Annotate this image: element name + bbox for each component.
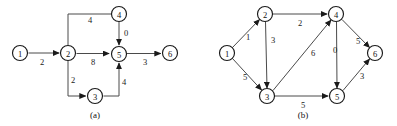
edge-b-3-to-4 [273,20,331,91]
graph-panel-a: 2834024123456(a) [13,7,178,121]
figure-root: 2834024123456(a)152360553123456(b) [0,0,397,126]
edge-weight-label: 3 [271,35,275,45]
graph-node-label: 1 [225,49,229,59]
graph-node-label: 2 [66,49,70,59]
panels-layer: 2834024123456(a)152360553123456(b) [13,7,383,121]
graph-node-label: 3 [93,92,97,102]
nodes-group: 123456 [13,7,178,104]
edge-weight-label: 8 [91,57,95,67]
edge-weight-label: 2 [298,18,302,28]
edge-weight-label: 0 [124,28,128,38]
edge-weight-label: 4 [88,15,93,25]
edge-weight-label: 3 [143,57,147,67]
edge-b-2-to-3 [266,22,268,89]
edges-group: 152360553 [233,14,370,110]
graph-node-label: 6 [373,49,377,59]
edge-weight-label: 2 [71,75,75,85]
panel-caption-a: (a) [90,110,100,120]
edge-a-3-to-5 [104,63,120,96]
edge-weight-label: 4 [122,77,127,87]
graph-node-label: 2 [263,10,267,20]
edge-weight-label: 5 [301,100,305,110]
panel-caption-b: (b) [298,110,309,120]
edge-weight-label: 5 [356,36,360,46]
graph-node-label: 3 [265,92,269,102]
graph-node-label: 1 [18,49,22,59]
edge-weight-label: 5 [243,72,247,82]
edge-weight-label: 1 [246,32,250,42]
edge-weight-label: 0 [333,45,337,55]
edge-weight-label: 3 [360,71,364,81]
edges-group: 2834024 [29,14,161,96]
edge-b-5-to-6 [343,59,370,91]
graph-panel-b: 152360553123456(b) [220,7,383,121]
edge-weight-label: 6 [311,48,315,58]
graph-figure-canvas: 2834024123456(a)152360553123456(b) [0,0,397,126]
graph-node-label: 6 [168,49,172,59]
graph-node-label: 5 [335,92,339,102]
graph-node-label: 5 [117,50,121,60]
edge-weight-label: 2 [40,57,44,67]
